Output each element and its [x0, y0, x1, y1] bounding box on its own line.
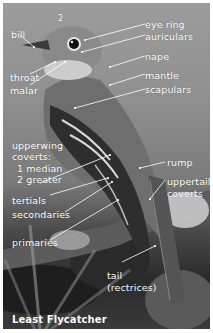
label-rump: rump [167, 158, 193, 168]
label-tail: tail [107, 271, 122, 281]
label-scapulars: scapulars [145, 85, 191, 95]
label-tertials: tertials [12, 196, 46, 206]
label-upperwing-coverts-median: 1 median [17, 164, 62, 174]
label-mantle: mantle [145, 71, 179, 81]
label-auriculars: auriculars [145, 32, 193, 42]
label-wing-marker-2: 2 [58, 14, 63, 24]
label-upperwing-coverts-line2: coverts: [12, 152, 51, 162]
label-primaries: primaries [12, 238, 58, 248]
label-nape: nape [145, 52, 169, 62]
label-upperwing-coverts-greater: 2 greater [17, 175, 62, 185]
figure-caption: Least Flycatcher [12, 315, 107, 325]
label-secondaries: secondaries [12, 210, 70, 220]
label-throat: throat [10, 73, 39, 83]
label-uppertail-coverts-line1: uppertail [167, 177, 210, 187]
label-malar: malar [10, 86, 38, 96]
label-eye-ring: eye ring [145, 20, 185, 30]
label-uppertail-coverts-line2: coverts [167, 189, 203, 199]
bird-photo-frame: bill eye ring auriculars nape throat mal… [3, 3, 210, 329]
label-rectrices: (rectrices) [107, 283, 157, 293]
label-bill: bill [11, 30, 25, 40]
label-upperwing-coverts-line1: upperwing [12, 141, 63, 151]
